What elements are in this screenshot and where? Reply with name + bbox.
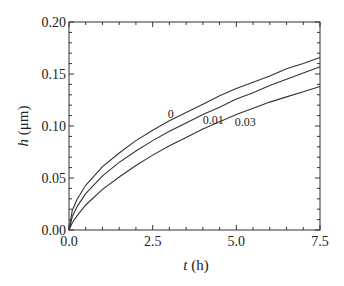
y-tick-label: 0.05 [42, 171, 67, 186]
line-chart: 00.010.03 0.02.55.07.5 0.000.050.100.150… [0, 0, 344, 286]
y-tick-labels: 0.000.050.100.150.20 [42, 15, 67, 238]
series-label: 0.03 [235, 115, 256, 129]
x-tick-label: 2.5 [144, 234, 162, 249]
series-label: 0 [168, 107, 174, 121]
series-line-0.01 [69, 67, 320, 230]
plot-frame [69, 22, 320, 230]
x-tick-labels: 0.02.55.07.5 [60, 234, 329, 249]
x-tick-label: 5.0 [228, 234, 246, 249]
y-tick-label: 0.20 [42, 15, 67, 30]
data-series [69, 57, 320, 230]
x-tick-label: 7.5 [311, 234, 329, 249]
y-tick-label: 0.00 [42, 223, 67, 238]
series-line-0 [69, 57, 320, 230]
x-axis-label: t (h) [183, 257, 208, 274]
series-label: 0.01 [203, 113, 224, 127]
y-axis-label: h (μm) [15, 106, 32, 147]
axis-ticks [69, 22, 320, 230]
y-tick-label: 0.15 [42, 67, 67, 82]
y-tick-label: 0.10 [42, 119, 67, 134]
